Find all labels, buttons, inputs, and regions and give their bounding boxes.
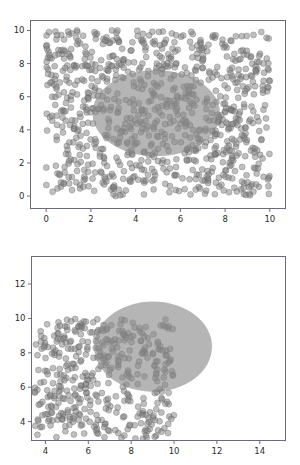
scatter-point — [117, 162, 123, 168]
scatter-point — [129, 39, 135, 45]
scatter-point — [250, 108, 256, 114]
scatter-point — [90, 319, 96, 325]
scatter-point — [66, 51, 72, 57]
scatter-point — [43, 182, 49, 188]
scatter-point — [35, 417, 41, 423]
scatter-point — [50, 365, 56, 371]
scatter-point — [80, 121, 86, 127]
scatter-point — [238, 48, 244, 54]
scatter-point — [82, 56, 88, 62]
scatter-point — [45, 71, 51, 77]
scatter-point — [91, 29, 97, 35]
scatter-point — [121, 168, 127, 174]
scatter-point — [258, 29, 264, 35]
scatter-point — [224, 54, 230, 60]
scatter-point — [59, 115, 65, 121]
scatter-point — [54, 372, 60, 378]
y-axis-tick-label: 2 — [19, 158, 24, 168]
scatter-point — [87, 402, 93, 408]
scatter-point — [37, 401, 43, 407]
scatter-point — [38, 333, 44, 339]
scatter-point — [34, 432, 40, 438]
scatter-point — [35, 352, 41, 358]
scatter-point — [157, 53, 163, 59]
y-axis-tick-label: 10 — [14, 25, 25, 35]
scatter-point — [48, 410, 54, 416]
scatter-point — [231, 51, 237, 57]
scatter-point — [228, 38, 234, 44]
scatter-point — [93, 145, 99, 151]
scatter-point — [50, 345, 56, 351]
scatter-point — [151, 186, 157, 192]
scatter-point — [200, 65, 206, 71]
scatter-point — [261, 70, 267, 76]
scatter-point — [256, 53, 262, 59]
scatter-point — [141, 401, 147, 407]
scatter-point — [212, 191, 218, 197]
confidence-ellipse-icon — [94, 301, 212, 391]
scatter-point — [53, 434, 59, 440]
scatter-point — [95, 398, 101, 404]
scatter-point — [228, 70, 234, 76]
scatter-point — [129, 165, 135, 171]
x-axis-tick-label: 6 — [178, 214, 183, 224]
scatter-point — [230, 76, 236, 82]
scatter-point — [82, 406, 88, 412]
scatter-point — [47, 393, 53, 399]
scatter-point — [105, 380, 111, 386]
scatter-point — [206, 69, 212, 75]
scatter-point — [77, 152, 83, 158]
scatter-point — [80, 104, 86, 110]
scatter-point — [264, 35, 270, 41]
scatter-point — [55, 336, 61, 342]
scatter-point — [139, 166, 145, 172]
scatter-point — [204, 173, 210, 179]
scatter-point — [223, 119, 229, 125]
scatter-point — [89, 373, 95, 379]
scatter-point — [232, 168, 238, 174]
scatter-point — [139, 60, 145, 66]
scatter-point — [35, 367, 41, 373]
scatter-point — [153, 406, 159, 412]
scatter-point — [120, 57, 126, 63]
scatter-point — [246, 84, 252, 90]
scatter-point — [113, 72, 119, 78]
scatter-point — [253, 181, 259, 187]
y-axis-tick-label: 6 — [19, 92, 24, 102]
scatter-point — [64, 324, 70, 330]
scatter-point — [262, 102, 268, 108]
scatter-point — [83, 352, 89, 358]
scatter-point — [172, 39, 178, 45]
scatter-point — [66, 139, 72, 145]
scatter-point — [149, 422, 155, 428]
scatter-point — [71, 386, 77, 392]
scatter-point — [156, 63, 162, 69]
scatter-point — [115, 430, 121, 436]
scatter-point — [64, 317, 70, 323]
scatter-point — [266, 151, 272, 157]
confidence-ellipse-icon — [92, 70, 220, 156]
scatter-point — [59, 341, 65, 347]
scatter-point — [233, 33, 239, 39]
scatter-point — [101, 434, 107, 440]
scatter-point — [44, 128, 50, 134]
scatter-point — [56, 354, 62, 360]
scatter-point — [77, 386, 83, 392]
scatter-point — [266, 191, 272, 197]
scatter-point — [44, 321, 50, 327]
scatter-point — [244, 172, 250, 178]
scatter-point — [249, 73, 255, 79]
scatter-point — [199, 47, 205, 53]
scatter-point — [138, 157, 144, 163]
scatter-point — [63, 363, 69, 369]
scatter-point — [60, 336, 66, 342]
scatter-point — [88, 383, 94, 389]
scatter-point — [78, 114, 84, 120]
scatter-point — [182, 64, 188, 70]
scatter-point — [164, 159, 170, 165]
scatter-point — [70, 361, 76, 367]
scatter-point — [145, 158, 151, 164]
scatter-point — [85, 90, 91, 96]
scatter-point — [107, 40, 113, 46]
scatter-point — [54, 137, 60, 143]
